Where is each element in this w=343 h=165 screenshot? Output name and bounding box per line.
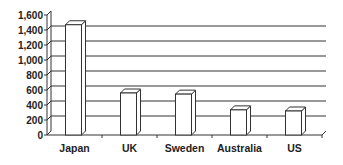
bar-sweden (176, 90, 196, 135)
x-category-label: US (287, 142, 302, 154)
bar-us (286, 107, 306, 135)
y-tick-label: 400 (26, 100, 43, 111)
bar-australia (231, 106, 251, 135)
x-category-label: Japan (59, 142, 89, 154)
y-tick-label: 1,000 (18, 55, 43, 66)
y-tick-label: 600 (26, 85, 43, 96)
x-category-label: Sweden (165, 142, 205, 154)
y-tick-label: 0 (37, 130, 43, 141)
bar-chart: 02004006008001,0001,2001,4001,600 JapanU… (0, 0, 343, 165)
y-axis: 02004006008001,0001,2001,4001,600 (18, 10, 51, 141)
y-tick-label: 800 (26, 70, 43, 81)
x-category-label: UK (122, 142, 138, 154)
y-tick-label: 1,200 (18, 40, 43, 51)
x-axis-labels: JapanUKSwedenAustraliaUS (59, 142, 301, 154)
y-tick-label: 1,400 (18, 25, 43, 36)
x-category-label: Australia (217, 142, 262, 154)
y-tick-label: 200 (26, 115, 43, 126)
bar-japan (66, 21, 86, 135)
y-tick-label: 1,600 (18, 10, 43, 21)
bar-uk (121, 89, 141, 135)
bars (66, 21, 306, 135)
